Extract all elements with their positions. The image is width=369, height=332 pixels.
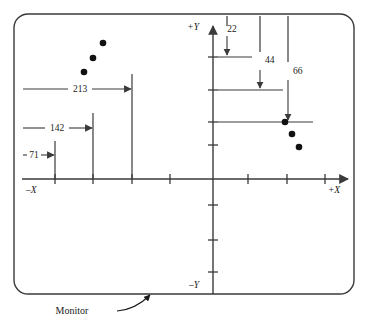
data-point (90, 55, 97, 62)
x-dimension-213: 213 (23, 74, 132, 179)
axis-label-negative-x: –X (25, 185, 38, 195)
diagram-canvas: –X +X +Y –Y 213 142 71 (0, 0, 369, 332)
monitor-coordinate-diagram: –X +X +Y –Y 213 142 71 (0, 0, 369, 332)
dimension-label-142: 142 (50, 123, 65, 133)
dimension-label-213: 213 (73, 84, 88, 94)
data-point (289, 131, 296, 138)
x-dimension-71: 71 (23, 141, 55, 179)
dimension-label-71: 71 (29, 150, 39, 160)
data-point-group-left (81, 40, 107, 76)
data-point (81, 69, 88, 76)
y-dimension-22: 22 (218, 16, 252, 57)
axis-label-negative-y: –Y (188, 280, 201, 290)
callout-leader-line (117, 295, 150, 311)
data-point-group-right (282, 119, 303, 151)
data-point (296, 144, 303, 151)
axis-label-positive-y: +Y (187, 22, 200, 32)
monitor-callout: Monitor (56, 295, 150, 316)
x-dimension-142: 142 (23, 113, 93, 179)
dimension-label-44: 44 (265, 55, 275, 65)
dimension-label-22: 22 (227, 24, 237, 34)
dimension-label-66: 66 (293, 66, 303, 76)
axis-label-positive-x: +X (328, 185, 341, 195)
callout-label: Monitor (56, 305, 89, 316)
data-point (100, 40, 107, 47)
monitor-frame (14, 14, 354, 294)
data-point (282, 119, 289, 126)
